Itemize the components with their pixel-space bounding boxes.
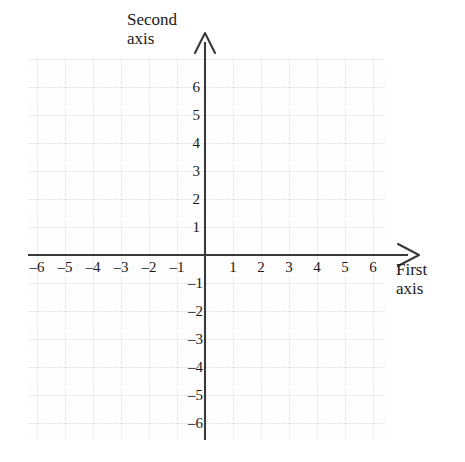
x-tick-label-1: 1 <box>229 260 237 275</box>
coordinate-plane-figure: Secondaxis Firstaxis –6 –5 –4 –3 –2 –1 1… <box>0 0 465 462</box>
y-tick-label-4: 4 <box>193 136 201 151</box>
y-tick-label-6: 6 <box>193 80 201 95</box>
y-tick-label--1: –1 <box>188 276 203 291</box>
x-tick-label--6: –6 <box>30 260 45 275</box>
x-axis-title: Firstaxis <box>396 260 427 298</box>
x-tick-label--4: –4 <box>86 260 101 275</box>
x-tick-label-6: 6 <box>369 260 377 275</box>
coordinate-plane-svg <box>0 0 465 462</box>
y-axis-title: Secondaxis <box>127 10 177 48</box>
x-tick-label-2: 2 <box>257 260 265 275</box>
y-axis-title-line1: Second <box>127 10 177 29</box>
x-tick-label--1: –1 <box>170 260 185 275</box>
grid-major <box>28 59 385 440</box>
y-axis-title-line2: axis <box>127 29 154 48</box>
y-tick-label--5: –5 <box>188 388 203 403</box>
y-tick-label--4: –4 <box>188 360 203 375</box>
x-tick-label-5: 5 <box>341 260 349 275</box>
y-tick-label-1: 1 <box>193 220 201 235</box>
x-axis-title-line1: First <box>396 260 427 279</box>
x-tick-label-4: 4 <box>313 260 321 275</box>
y-tick-label-5: 5 <box>193 108 201 123</box>
y-tick-label--3: –3 <box>188 332 203 347</box>
x-tick-label--2: –2 <box>142 260 157 275</box>
y-tick-label-3: 3 <box>193 164 201 179</box>
x-tick-label--3: –3 <box>114 260 129 275</box>
y-tick-label--6: –6 <box>188 416 203 431</box>
x-tick-label-3: 3 <box>285 260 293 275</box>
y-tick-label--2: –2 <box>188 304 203 319</box>
y-tick-label-2: 2 <box>193 192 201 207</box>
x-axis-title-line2: axis <box>396 279 423 298</box>
x-tick-label--5: –5 <box>58 260 73 275</box>
